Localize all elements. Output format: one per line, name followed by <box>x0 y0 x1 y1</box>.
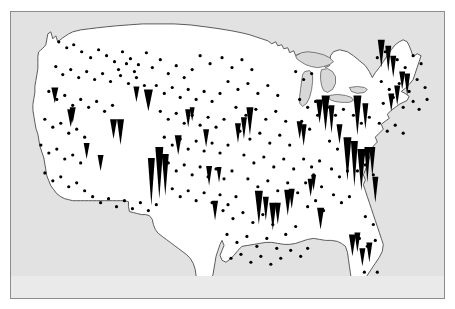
dot-marker <box>254 108 257 111</box>
dot-marker <box>139 201 142 204</box>
dot-marker <box>234 106 237 109</box>
dot-marker <box>259 255 262 258</box>
dot-marker <box>265 237 268 240</box>
dot-marker <box>103 110 106 113</box>
dot-marker <box>362 153 365 156</box>
dot-marker <box>105 54 108 57</box>
dot-marker <box>191 173 194 176</box>
dot-marker <box>246 82 249 85</box>
dot-marker <box>418 108 421 111</box>
dot-marker <box>179 195 182 198</box>
dot-marker <box>238 130 241 133</box>
dot-marker <box>109 80 112 83</box>
dot-marker <box>314 100 317 103</box>
dot-marker <box>423 86 426 89</box>
dot-marker <box>55 98 58 101</box>
dot-marker <box>47 90 50 93</box>
dot-marker <box>221 209 224 212</box>
dot-marker <box>51 179 54 182</box>
dot-marker <box>61 73 64 76</box>
dot-marker <box>380 80 383 83</box>
dot-marker <box>39 143 42 146</box>
dot-marker <box>256 185 259 188</box>
dot-marker <box>230 66 233 69</box>
dot-marker <box>187 189 190 192</box>
dot-marker <box>416 78 419 81</box>
dot-marker <box>203 149 206 152</box>
dot-marker <box>121 50 124 53</box>
dot-marker <box>358 237 361 240</box>
dot-marker <box>388 88 391 91</box>
dot-marker <box>111 104 114 107</box>
figure-root: Black-and-white thematic map of the cont… <box>0 0 455 309</box>
dot-marker <box>210 201 213 204</box>
dot-marker <box>225 233 228 236</box>
dot-marker <box>266 179 269 182</box>
dot-marker <box>374 239 377 242</box>
dot-marker <box>159 110 162 113</box>
dot-marker <box>308 128 311 131</box>
dot-marker <box>312 173 315 176</box>
dot-marker <box>264 118 267 121</box>
dot-marker <box>302 157 305 160</box>
dot-marker <box>43 171 46 174</box>
dot-marker <box>199 124 202 127</box>
dot-marker <box>258 132 261 135</box>
dot-marker <box>326 106 329 109</box>
dot-marker <box>54 65 57 68</box>
dot-marker <box>131 207 134 210</box>
dot-marker <box>402 132 405 135</box>
dot-marker <box>71 153 74 156</box>
dot-marker <box>352 114 355 117</box>
dot-marker <box>318 159 321 162</box>
dot-marker <box>183 163 186 166</box>
dot-marker <box>248 138 251 141</box>
dot-marker <box>234 195 237 198</box>
dot-marker <box>145 51 148 54</box>
dot-marker <box>67 185 70 188</box>
dot-marker <box>241 211 244 214</box>
dot-marker <box>72 43 75 46</box>
dot-marker <box>231 217 234 220</box>
dot-marker <box>129 57 132 60</box>
dot-marker <box>89 56 92 59</box>
dot-marker <box>175 112 178 115</box>
dot-marker <box>376 271 379 274</box>
dot-marker <box>125 62 128 65</box>
dot-marker <box>310 165 313 168</box>
dot-marker <box>252 161 255 164</box>
dot-marker <box>244 114 247 117</box>
dot-marker <box>294 225 297 228</box>
dot-marker <box>80 50 83 53</box>
dot-marker <box>348 195 351 198</box>
dot-marker <box>93 78 96 81</box>
dot-marker <box>322 209 325 212</box>
dot-marker <box>372 173 375 176</box>
dot-marker <box>127 82 130 85</box>
us-map-svg <box>11 12 444 298</box>
dot-marker <box>246 177 249 180</box>
dot-marker <box>83 189 86 192</box>
dot-marker <box>167 161 170 164</box>
dot-marker <box>43 118 46 121</box>
dot-marker <box>99 201 102 204</box>
dot-marker <box>396 58 399 61</box>
dot-marker <box>208 62 211 65</box>
dot-marker <box>179 138 182 141</box>
dot-marker <box>364 215 367 218</box>
dot-marker <box>83 136 86 139</box>
dot-marker <box>155 203 158 206</box>
dot-marker <box>372 223 375 226</box>
dot-marker <box>306 106 309 109</box>
dot-marker <box>107 197 110 200</box>
dot-marker <box>366 286 369 289</box>
dot-marker <box>275 247 278 250</box>
dot-marker <box>282 157 285 160</box>
dot-marker <box>47 151 50 154</box>
dot-marker <box>187 147 190 150</box>
spike-marker <box>369 147 375 177</box>
dot-marker <box>284 120 287 123</box>
dot-marker <box>302 78 305 81</box>
dot-marker <box>284 233 287 236</box>
dot-marker <box>218 193 221 196</box>
